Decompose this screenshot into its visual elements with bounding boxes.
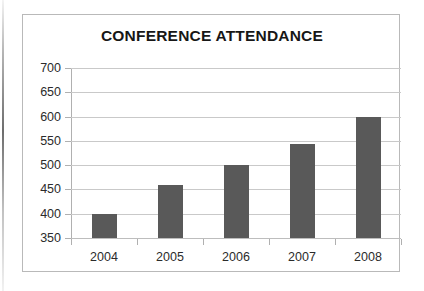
x-axis-tick-label: 2007 [269, 251, 335, 264]
y-axis-tick-label: 650 [23, 86, 61, 99]
gridline [71, 117, 401, 118]
chart-frame: CONFERENCE ATTENDANCE 700650600550500450… [22, 14, 400, 272]
y-axis-tick-label: 700 [23, 62, 61, 75]
chart-title: CONFERENCE ATTENDANCE [23, 27, 401, 45]
x-axis-tick-mark [335, 239, 336, 245]
x-axis-tick-mark [137, 239, 138, 245]
bar [224, 165, 249, 238]
gridline [71, 141, 401, 142]
gridline [71, 68, 401, 69]
plot-area [71, 68, 401, 238]
y-axis-tick-label: 600 [23, 111, 61, 124]
y-axis-tick-label: 350 [23, 232, 61, 245]
x-axis-tick-label: 2004 [71, 251, 137, 264]
x-axis-tick-mark [401, 239, 402, 245]
y-axis-tick-label: 400 [23, 208, 61, 221]
bar [158, 185, 183, 238]
y-axis-tick-label: 450 [23, 183, 61, 196]
x-axis-tick-mark [71, 239, 72, 245]
x-axis-tick-mark [269, 239, 270, 245]
bar [356, 117, 381, 238]
x-axis-tick-label: 2008 [335, 251, 401, 264]
y-axis-tick-label: 550 [23, 135, 61, 148]
gridline [71, 92, 401, 93]
gridline [71, 238, 401, 239]
bar [290, 144, 315, 238]
x-axis-tick-label: 2005 [137, 251, 203, 264]
x-axis-tick-mark [203, 239, 204, 245]
page-edge-artifact [2, 0, 4, 291]
y-axis-tick-label: 500 [23, 159, 61, 172]
x-axis-tick-label: 2006 [203, 251, 269, 264]
bar [92, 214, 117, 238]
